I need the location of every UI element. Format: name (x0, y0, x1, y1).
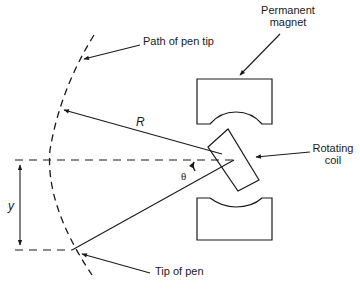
label-permanent-magnet-line2: magnet (253, 16, 323, 28)
label-permanent-magnet-line1: Permanent (253, 4, 323, 16)
theta-arrow (193, 162, 195, 171)
label-tip-of-pen: Tip of pen (155, 265, 204, 277)
label-y: y (8, 200, 14, 212)
label-rotating-coil: Rotating coil (306, 142, 360, 166)
leader-tip-of-pen (82, 254, 150, 273)
label-permanent-magnet: Permanent magnet (253, 4, 323, 28)
label-theta: θ (181, 170, 186, 182)
leader-rotating-coil (256, 152, 310, 157)
label-rotating-coil-line1: Rotating (306, 142, 360, 154)
leader-permanent-magnet (240, 34, 280, 75)
label-path-of-pen-tip: Path of pen tip (143, 35, 214, 47)
permanent-magnet-bottom (197, 198, 272, 240)
label-radius-r: R (136, 116, 145, 128)
permanent-magnet-top (197, 79, 272, 124)
label-rotating-coil-line2: coil (306, 154, 360, 166)
pointer-line (72, 160, 234, 250)
leader-path-of-pen-tip (84, 45, 140, 59)
pen-tip-path-arc (50, 35, 94, 275)
